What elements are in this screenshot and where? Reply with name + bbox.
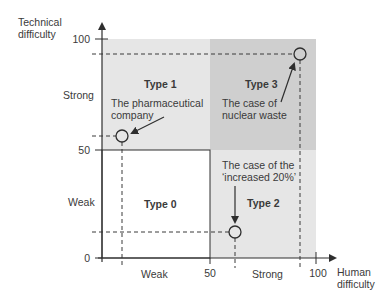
x-tick-100: 100 xyxy=(309,267,327,279)
y-tick-0: 0 xyxy=(84,252,90,264)
x-tick-50: 50 xyxy=(204,267,216,279)
annotation-increased-line1: The case of the xyxy=(222,159,295,171)
annotation-pharma-line2: company xyxy=(111,109,154,121)
x-axis-title-line1: Human xyxy=(337,266,371,278)
y-label-weak: Weak xyxy=(68,196,95,208)
x-label-strong: Strong xyxy=(252,268,283,280)
y-tick-50: 50 xyxy=(78,144,90,156)
y-tick-100: 100 xyxy=(72,33,90,45)
quadrant-label-type0: Type 0 xyxy=(144,198,177,210)
y-label-strong: Strong xyxy=(63,89,94,101)
quadrant-chart: 100 50 0 50 100 Technical difficulty Hum… xyxy=(0,0,389,307)
y-axis-title-line2: difficulty xyxy=(18,28,56,40)
annotation-nuclear-line1: The case of xyxy=(222,97,277,109)
x-axis-title-line2: difficulty xyxy=(337,278,375,290)
annotation-nuclear-line2: nuclear waste xyxy=(222,109,287,121)
x-label-weak: Weak xyxy=(141,268,168,280)
quadrant-label-type1: Type 1 xyxy=(144,78,177,90)
quadrant-label-type3: Type 3 xyxy=(245,78,278,90)
y-axis-title-line1: Technical xyxy=(18,16,62,28)
quadrant-label-type2: Type 2 xyxy=(247,197,280,209)
annotation-increased-line2: ‘increased 20%’ xyxy=(222,171,296,183)
annotation-pharma-line1: The pharmaceutical xyxy=(111,97,203,109)
